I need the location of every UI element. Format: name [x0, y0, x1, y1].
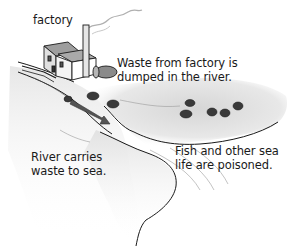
illustration	[0, 0, 292, 252]
label-waste-dumped: Waste from factory is dumped in the rive…	[117, 56, 238, 84]
label-sea-life: Fish and other sea life are poisoned.	[175, 144, 279, 172]
smoke-2	[92, 26, 110, 34]
pollution-diagram: factory Waste from factory is dumped in …	[0, 0, 292, 252]
label-river-carries: River carries waste to sea.	[31, 150, 106, 178]
label-factory: factory	[33, 13, 73, 27]
smoke	[88, 10, 142, 28]
